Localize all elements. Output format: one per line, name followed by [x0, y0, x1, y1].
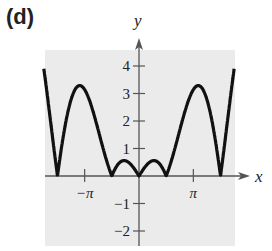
y-axis-label: y: [132, 11, 142, 30]
y-tick-label: 3: [123, 86, 131, 102]
x-axis-label: x: [254, 167, 263, 186]
y-tick-label: −2: [114, 223, 130, 239]
y-tick-label: 2: [123, 113, 131, 129]
y-tick-label: 4: [123, 58, 131, 74]
x-tick-label: π: [190, 185, 198, 201]
y-tick-label: 1: [123, 141, 131, 157]
y-tick-label: −1: [114, 196, 130, 212]
x-tick-label: −π: [76, 185, 94, 201]
function-plot: 4321−1−2−ππ x y: [0, 0, 272, 251]
